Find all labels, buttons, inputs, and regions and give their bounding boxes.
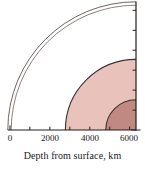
x-tick-label-0: 0 (8, 133, 13, 143)
x-axis-caption: Depth from surface, km (0, 150, 145, 161)
x-tick-label-6000: 6000 (120, 133, 138, 143)
x-tick-label-4000: 4000 (81, 133, 99, 143)
x-tick-label-2000: 2000 (41, 133, 59, 143)
earth-interior-figure: 0 2000 4000 6000 Depth from surface, km (0, 0, 145, 171)
earth-cross-section-diagram (0, 0, 145, 145)
